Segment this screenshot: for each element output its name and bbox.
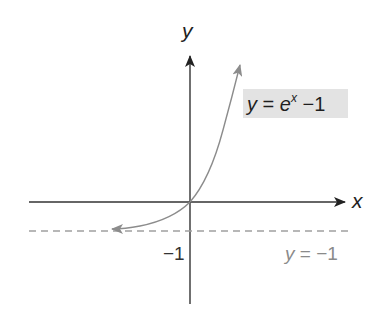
y-axis-label: y (182, 20, 193, 41)
asymptote-label: y = −1 (285, 244, 338, 263)
y-tick-minus-one: −1 (163, 244, 185, 263)
function-label-eq: = (263, 93, 275, 115)
graph-canvas (0, 0, 392, 331)
function-label-base: e (280, 93, 291, 115)
curve-upper-branch (190, 65, 240, 202)
function-label-y: y (247, 93, 257, 115)
function-label: y = ex −1 (247, 94, 325, 114)
curve-lower-branch (112, 202, 190, 229)
function-label-rest: −1 (303, 93, 326, 115)
x-axis-label: x (352, 190, 363, 211)
function-label-exp: x (291, 91, 297, 105)
